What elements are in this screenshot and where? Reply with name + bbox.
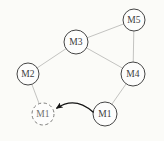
- move-arrow-M1-current-to-M1-ghost: [57, 103, 93, 112]
- machine-graph-diagram: M5M3M2M4M1M1: [0, 0, 164, 141]
- node-label-M1-current: M1: [98, 109, 112, 119]
- node-label-M3: M3: [69, 37, 83, 47]
- node-M4: M4: [121, 62, 145, 86]
- node-M5: M5: [123, 9, 145, 31]
- node-M2: M2: [17, 63, 39, 85]
- node-label-M5: M5: [127, 15, 141, 25]
- node-label-M4: M4: [126, 69, 140, 79]
- node-M1-current: M1: [93, 102, 117, 126]
- node-M1-ghost: M1: [32, 103, 54, 125]
- node-label-M1-ghost: M1: [36, 109, 50, 119]
- graph-svg: M5M3M2M4M1M1: [0, 0, 164, 141]
- node-label-M2: M2: [21, 69, 35, 79]
- node-M3: M3: [64, 30, 88, 54]
